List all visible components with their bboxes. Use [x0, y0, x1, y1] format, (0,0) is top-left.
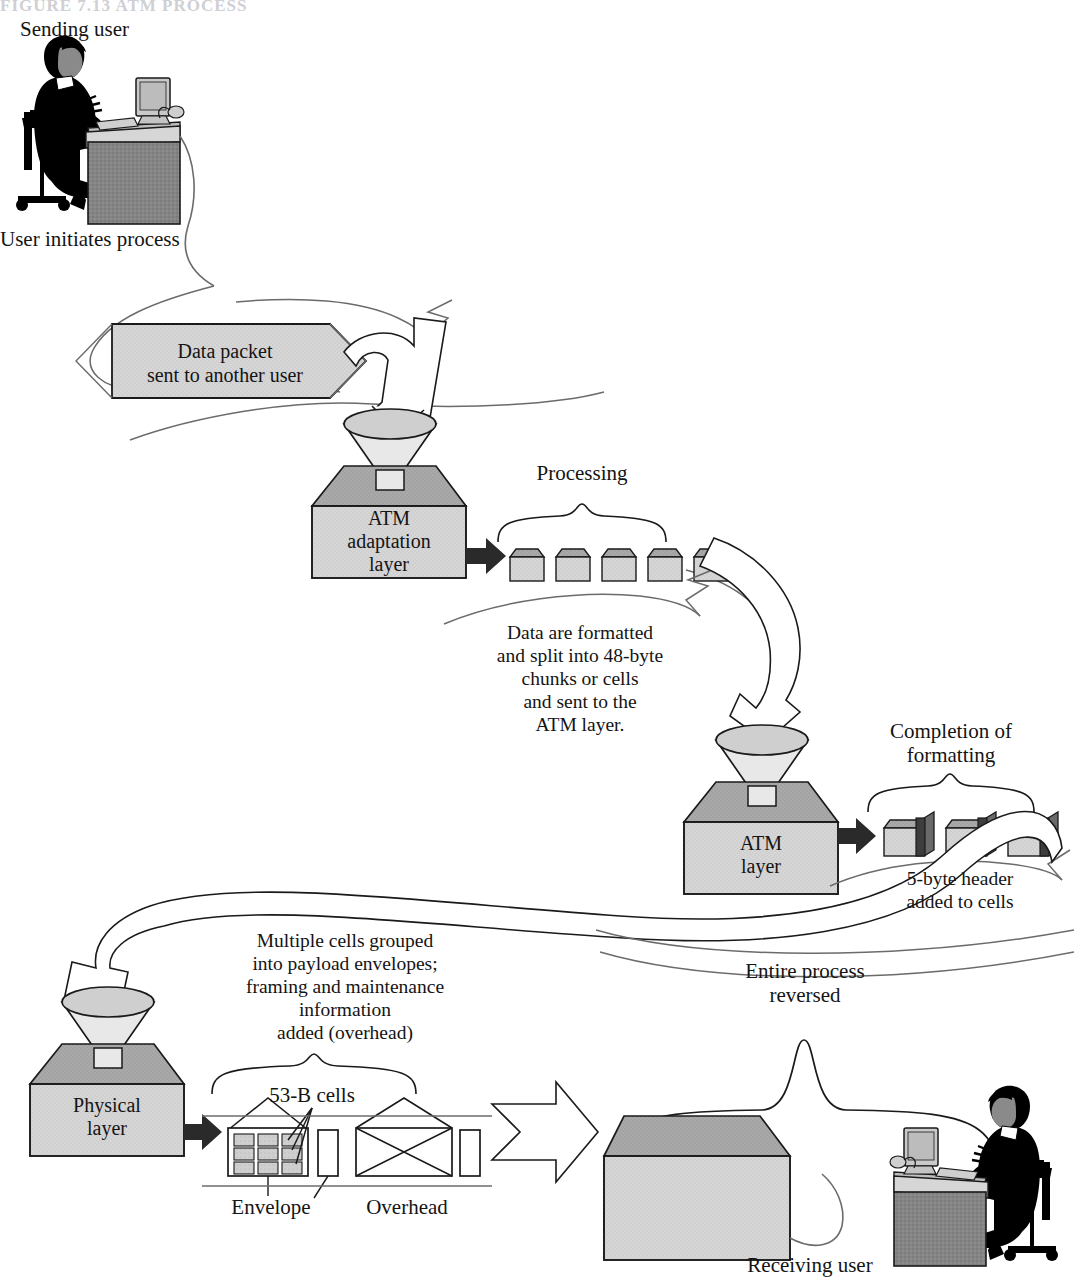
caption-physical-line2: into payload envelopes;: [200, 953, 490, 975]
brace-label-reversed-line2: reversed: [700, 984, 910, 1008]
envelope-label: Envelope: [196, 1196, 346, 1220]
layer-label-aal-line3: layer: [312, 553, 466, 575]
brace-label-completion-line1: Completion of: [856, 720, 1046, 744]
caption-aal-line4: and sent to the: [460, 691, 700, 713]
caption-aal-line5: ATM layer.: [460, 714, 700, 736]
user-initiates-label: User initiates process: [0, 228, 230, 252]
receiving-box: [604, 1116, 843, 1260]
atm-cell: [884, 812, 934, 856]
caption-aal-line2: and split into 48-byte: [460, 645, 700, 667]
overhead-bar: [318, 1130, 338, 1176]
data-packet-label-line2: sent to another user: [112, 364, 338, 386]
layer-label-atm-line1: ATM: [684, 832, 838, 854]
brace-completion: [868, 774, 1034, 812]
data-packet-label-line1: Data packet: [120, 340, 330, 362]
brace-label-completion-line2: formatting: [856, 744, 1046, 768]
overhead-label: Overhead: [332, 1196, 482, 1220]
caption-atm-line2: added to cells: [860, 891, 1060, 913]
layer-label-physical-line1: Physical: [30, 1094, 184, 1116]
receiving-user-label: Receiving user: [690, 1254, 930, 1278]
caption-atm-line1: 5-byte header: [860, 868, 1060, 890]
brace-label-reversed-line1: Entire process: [700, 960, 910, 984]
sending-user-label: Sending user: [20, 18, 200, 42]
brace-processing: [498, 504, 666, 542]
caption-physical-line3: framing and maintenance: [190, 976, 500, 998]
layer-label-aal-line2: adaptation: [312, 530, 466, 552]
brace-label-processing: Processing: [492, 462, 672, 486]
arrow-physical-to-receiver: [492, 1082, 598, 1182]
atm-process-diagram: FIGURE 7.13 ATM PROCESS: [0, 0, 1074, 1287]
arrow-aal-to-atm: [700, 538, 800, 742]
caption-aal-line3: chunks or cells: [460, 668, 700, 690]
overhead-bar: [460, 1130, 480, 1176]
layer-label-atm-line2: layer: [684, 855, 838, 877]
caption-physical-line4: information: [200, 999, 490, 1021]
caption-aal-line1: Data are formatted: [460, 622, 700, 644]
payload-envelope-group: [202, 1054, 492, 1198]
arrow-atm-output: [838, 818, 876, 854]
arrow-aal-output: [466, 538, 506, 574]
physical-cells-label: 53-B cells: [222, 1084, 402, 1108]
caption-physical-line1: Multiple cells grouped: [200, 930, 490, 952]
layer-label-physical-line2: layer: [30, 1117, 184, 1139]
arrow-physical-output: [184, 1114, 222, 1150]
caption-physical-line5: added (overhead): [200, 1022, 490, 1044]
layer-label-aal-line1: ATM: [312, 507, 466, 529]
envelope-cell-grid: [234, 1134, 302, 1174]
